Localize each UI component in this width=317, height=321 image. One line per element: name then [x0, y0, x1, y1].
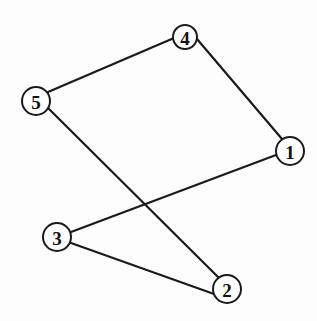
- edges: [48, 38, 282, 294]
- edge-5-2: [48, 108, 218, 277]
- node-1: 1: [276, 137, 304, 165]
- node-label: 5: [31, 92, 41, 113]
- nodes: 12345: [22, 25, 304, 303]
- edge-5-4: [48, 38, 174, 92]
- node-4: 4: [173, 25, 197, 49]
- node-label: 4: [180, 28, 190, 49]
- node-2: 2: [213, 275, 241, 303]
- node-label: 3: [52, 228, 62, 249]
- edge-4-1: [197, 39, 282, 139]
- node-label: 2: [222, 280, 232, 301]
- graph-diagram: 12345: [0, 0, 317, 321]
- node-3: 3: [43, 223, 71, 251]
- node-5: 5: [22, 87, 50, 115]
- node-label: 1: [285, 142, 295, 163]
- graph-svg: 12345: [0, 0, 317, 321]
- edge-3-1: [71, 155, 276, 232]
